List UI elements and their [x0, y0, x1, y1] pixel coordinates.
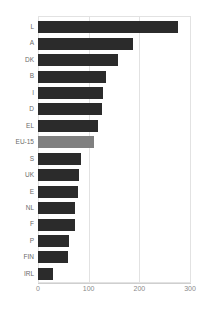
category-label-I: I — [0, 85, 34, 101]
bar-D[interactable] — [38, 103, 102, 115]
bar-DK[interactable] — [38, 54, 118, 66]
bar-row: UK — [0, 167, 207, 183]
bar-E[interactable] — [38, 186, 78, 198]
bar-P[interactable] — [38, 235, 69, 247]
bar-NL[interactable] — [38, 202, 75, 214]
category-label-F: F — [0, 216, 34, 232]
bar-row: IRL — [0, 266, 207, 282]
x-tick-label-300: 300 — [170, 285, 207, 292]
category-label-UK: UK — [0, 167, 34, 183]
category-label-NL: NL — [0, 200, 34, 216]
category-label-D: D — [0, 101, 34, 117]
bar-row: EU-15 — [0, 134, 207, 150]
x-tick-label-200: 200 — [119, 285, 159, 292]
category-label-L: L — [0, 19, 34, 35]
x-tick-label-0: 0 — [18, 285, 58, 292]
category-label-DK: DK — [0, 52, 34, 68]
bar-row: E — [0, 184, 207, 200]
bar-row: A — [0, 35, 207, 51]
x-axis-line — [38, 283, 191, 284]
bar-row: L — [0, 19, 207, 35]
category-label-IRL: IRL — [0, 266, 34, 282]
bar-UK[interactable] — [38, 169, 79, 181]
category-label-P: P — [0, 233, 34, 249]
bar-L[interactable] — [38, 21, 178, 33]
bar-row: I — [0, 85, 207, 101]
bar-chart: LADKBIDELEU-15SUKENLFPFINIRL 0100200300 — [0, 0, 207, 316]
category-label-EU-15: EU-15 — [0, 134, 34, 150]
category-label-A: A — [0, 35, 34, 51]
bar-F[interactable] — [38, 219, 75, 231]
bar-B[interactable] — [38, 71, 106, 83]
bar-A[interactable] — [38, 38, 133, 50]
bar-row: FIN — [0, 249, 207, 265]
category-label-FIN: FIN — [0, 249, 34, 265]
bar-row: F — [0, 216, 207, 232]
category-label-B: B — [0, 68, 34, 84]
bar-row: NL — [0, 200, 207, 216]
bar-row: S — [0, 151, 207, 167]
bar-row: EL — [0, 118, 207, 134]
category-label-S: S — [0, 151, 34, 167]
bar-I[interactable] — [38, 87, 103, 99]
chart-title — [0, 0, 207, 9]
bar-row: D — [0, 101, 207, 117]
bar-EU-15[interactable] — [38, 136, 94, 148]
bar-IRL[interactable] — [38, 268, 53, 280]
bar-rows: LADKBIDELEU-15SUKENLFPFINIRL — [0, 16, 207, 283]
bar-EL[interactable] — [38, 120, 98, 132]
bar-FIN[interactable] — [38, 251, 68, 263]
category-label-E: E — [0, 184, 34, 200]
x-tick-label-100: 100 — [69, 285, 109, 292]
bar-row: B — [0, 68, 207, 84]
bar-row: P — [0, 233, 207, 249]
bar-row: DK — [0, 52, 207, 68]
bar-S[interactable] — [38, 153, 81, 165]
category-label-EL: EL — [0, 118, 34, 134]
